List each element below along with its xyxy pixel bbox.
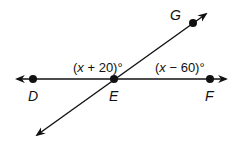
point-d	[29, 75, 37, 83]
label-f: F	[205, 88, 215, 104]
point-e	[110, 75, 118, 83]
label-d: D	[28, 88, 38, 104]
point-g	[189, 19, 197, 27]
label-g: G	[170, 7, 181, 23]
label-e: E	[109, 88, 119, 104]
angle-label-deg: (x + 20)°	[73, 60, 123, 75]
geometry-diagram: G D E F (x + 20)° (x − 60)°	[0, 0, 238, 146]
angle-label-gef: (x − 60)°	[155, 60, 205, 75]
point-f	[206, 75, 214, 83]
